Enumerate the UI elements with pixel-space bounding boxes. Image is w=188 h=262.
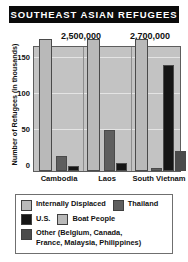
legend-item-internally-displaced: Internally Displaced (21, 199, 106, 211)
legend-row-3: Other (Belgium, Canada, France, Malaysia… (21, 228, 168, 247)
chart-figure: SOUTHEAST ASIAN REFUGEES Number of Refug… (0, 0, 188, 262)
plot-area: Cambodia Laos South Vietnam (33, 46, 181, 172)
bar-south-vietnam-us (163, 65, 174, 171)
legend-label-us: U.S. (36, 214, 50, 224)
x-label-south-vietnam: South Vietnam (132, 174, 185, 183)
legend-label-other-line2: France, Malaysia, Philippines) (36, 238, 141, 248)
group-separator-1 (83, 47, 84, 171)
legend-label-internally-displaced: Internally Displaced (36, 199, 106, 209)
gridline-150 (34, 57, 180, 58)
bar-laos-internally-displaced (87, 39, 100, 171)
group-separator-2 (131, 47, 132, 171)
bar-south-vietnam-internally-displaced (135, 39, 148, 171)
legend-label-other-wrap: Other (Belgium, Canada, France, Malaysia… (36, 228, 141, 247)
bar-laos-us (116, 163, 127, 171)
x-label-cambodia: Cambodia (41, 174, 78, 183)
legend-item-us: U.S. (21, 214, 50, 226)
x-label-laos: Laos (98, 174, 116, 183)
gridline-100 (34, 93, 180, 94)
legend-swatch-boat-people (57, 214, 68, 225)
legend-item-thailand: Thailand (113, 199, 158, 211)
legend-item-boat-people: Boat People (57, 214, 115, 226)
legend-row-2: U.S. Boat People (21, 214, 168, 226)
y-tick-0: 0 (26, 161, 30, 170)
bar-cambodia-us (68, 166, 79, 171)
legend-swatch-internally-displaced (21, 200, 32, 211)
legend-swatch-us (21, 214, 32, 225)
bar-cambodia-internally-displaced (39, 39, 52, 171)
legend-label-boat-people: Boat People (72, 214, 115, 224)
bar-south-vietnam-other (175, 151, 186, 171)
bar-laos-thailand (104, 130, 115, 171)
legend-label-other-line1: Other (Belgium, Canada, (36, 228, 141, 238)
y-tick-150: 150 (17, 53, 30, 62)
chart-title-banner: SOUTHEAST ASIAN REFUGEES (9, 6, 179, 23)
legend-swatch-other (21, 229, 32, 240)
y-axis-ticks: 150 100 50 0 (0, 46, 33, 172)
bar-south-vietnam-thailand (151, 168, 162, 171)
chart-legend: Internally Displaced Thailand U.S. Boat … (15, 194, 173, 254)
bar-cambodia-thailand (56, 156, 67, 171)
y-tick-100: 100 (17, 89, 30, 98)
page-title: SOUTHEAST ASIAN REFUGEES (11, 9, 178, 20)
y-tick-50: 50 (22, 125, 30, 134)
legend-swatch-thailand (113, 200, 124, 211)
legend-row-1: Internally Displaced Thailand (21, 199, 168, 211)
legend-label-thailand: Thailand (128, 199, 158, 209)
